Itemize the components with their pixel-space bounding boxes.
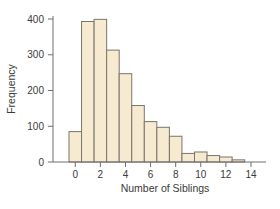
histogram-bar (207, 156, 220, 162)
histogram-bar (69, 132, 82, 162)
y-tick-label: 0 (38, 157, 44, 168)
x-axis-ticks: 02468101214 (72, 162, 256, 180)
y-tick-label: 100 (27, 121, 44, 132)
histogram-bar (182, 153, 195, 162)
y-tick-label: 400 (27, 14, 44, 25)
histogram-bar (169, 136, 182, 162)
y-axis-label: Frequency (5, 63, 17, 113)
histogram-bar (94, 19, 107, 162)
histogram-bar (132, 106, 145, 162)
histogram-chart: 0100200300400 02468101214 Number of Sibl… (0, 0, 280, 209)
x-tick-label: 8 (173, 169, 179, 180)
y-tick-label: 200 (27, 85, 44, 96)
histogram-bar (82, 22, 95, 163)
x-tick-label: 12 (220, 169, 232, 180)
x-tick-label: 4 (123, 169, 129, 180)
y-axis-ticks: 0100200300400 (27, 14, 53, 168)
histogram-bar (157, 127, 170, 162)
histogram-bar (220, 157, 233, 162)
histogram-bar (195, 152, 208, 162)
histogram-bar (144, 122, 157, 162)
x-axis-label: Number of Siblings (121, 182, 210, 194)
x-tick-label: 2 (98, 169, 104, 180)
x-tick-label: 6 (148, 169, 154, 180)
x-tick-label: 0 (72, 169, 78, 180)
histogram-bars (69, 19, 245, 162)
histogram-bar (119, 74, 132, 162)
x-tick-label: 10 (195, 169, 207, 180)
y-tick-label: 300 (27, 49, 44, 60)
x-tick-label: 14 (245, 169, 257, 180)
histogram-bar (107, 50, 120, 162)
